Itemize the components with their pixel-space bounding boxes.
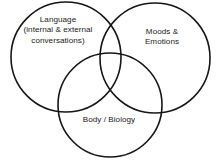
venn-diagram: Language (internal & external conversati… [0, 0, 220, 160]
venn-circles-group [0, 0, 220, 160]
circle-moods-emotions [100, 3, 210, 113]
circle-body-biology [58, 53, 162, 157]
circle-language [11, 2, 121, 112]
